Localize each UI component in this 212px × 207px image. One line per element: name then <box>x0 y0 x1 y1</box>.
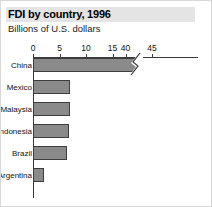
bar-argentina <box>33 168 44 182</box>
bar-brazil <box>33 146 67 160</box>
x-tick-label: 5 <box>57 44 62 53</box>
chart-figure: FDI by country, 1996 Billions of U.S. do… <box>0 0 212 207</box>
x-tick-mark <box>152 54 153 58</box>
bar-china <box>33 58 143 72</box>
category-label-malaysia: Malaysia <box>0 105 32 114</box>
category-label-brazil: Brazil <box>12 149 32 158</box>
bar-indonesia <box>33 124 69 138</box>
x-tick-label: 45 <box>147 44 156 53</box>
x-tick-label: 40 <box>121 44 130 53</box>
category-label-argentina: Argentina <box>0 171 32 180</box>
x-tick-label: 0 <box>31 44 36 53</box>
category-label-mexico: Mexico <box>7 83 32 92</box>
bar-malaysia <box>33 102 70 116</box>
x-tick-label: 10 <box>81 44 90 53</box>
plot-area: 0510154045 ChinaMexicoMalaysiaIndonesiaB… <box>0 44 212 204</box>
category-label-china: China <box>11 61 32 70</box>
bar-mexico <box>33 80 70 94</box>
chart-title: FDI by country, 1996 <box>8 7 111 21</box>
x-tick-label: 15 <box>108 44 117 53</box>
category-label-indonesia: Indonesia <box>0 127 32 136</box>
chart-subtitle: Billions of U.S. dollars <box>8 23 100 35</box>
